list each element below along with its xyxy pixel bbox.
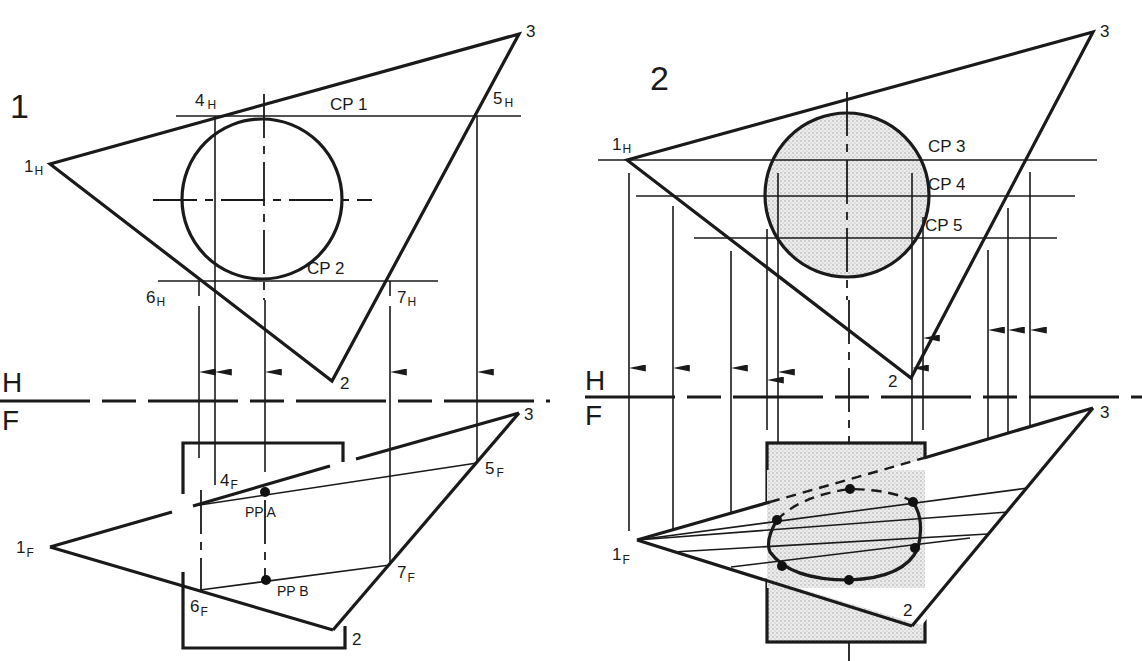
figure2-horizontal-view: 1H CP 3 CP 4 CP 5 3 2 — [598, 22, 1109, 391]
point-2h-label: 2 — [340, 374, 349, 393]
intersection-point — [844, 575, 854, 585]
edge-1-3-front-c — [356, 413, 519, 459]
intersection-point — [910, 543, 920, 553]
reference-h-label: H — [2, 367, 22, 398]
point-3f-label: 3 — [524, 405, 533, 424]
point-7f-label: 7F — [397, 563, 415, 585]
cp1-label: CP 1 — [330, 95, 368, 114]
point-7h-label: 7H — [397, 288, 416, 309]
figure-number: 2 — [650, 59, 669, 97]
point-1h-label: 1H — [612, 135, 631, 156]
point-2f-label: 2 — [352, 630, 361, 649]
pp-b-label: PP B — [277, 583, 309, 599]
intersection-point — [845, 484, 855, 494]
point-2f-label: 2 — [903, 601, 912, 620]
edge-1-3-front-b — [193, 466, 330, 506]
point-4h-label: 4H — [195, 91, 216, 112]
figure1-front-view: 4F PP A 5F 3 1F 7F PP B 6F 2 — [16, 405, 533, 649]
point-3h-label: 3 — [1100, 22, 1109, 41]
intersection-point — [777, 561, 787, 571]
reference-h-label: H — [585, 365, 605, 396]
figure-1: 1 4H CP 1 5H 3 1H CP 2 6H 7H 2 — [0, 22, 550, 649]
intersection-point — [908, 497, 918, 507]
point-1h-label: 1H — [24, 157, 43, 178]
piercing-point-b — [261, 575, 271, 585]
cylinder-top-view — [182, 119, 342, 279]
point-3h-label: 3 — [526, 22, 535, 41]
intersection-point — [772, 515, 782, 525]
figure-number: 1 — [10, 87, 29, 125]
edge-3-2-front — [333, 413, 519, 630]
figure1-horizontal-view: 4H CP 1 5H 3 1H CP 2 6H 7H 2 — [24, 22, 535, 393]
point-3f-label: 3 — [1100, 403, 1109, 422]
point-4f-label: 4F — [220, 471, 238, 492]
point-6f-label: 6F — [190, 597, 208, 619]
reference-f-label: F — [585, 400, 602, 431]
triangle-plane-top-view — [50, 34, 519, 381]
point-2h-label: 2 — [888, 372, 897, 391]
cp4-label: CP 4 — [928, 175, 966, 194]
piercing-point-a — [260, 487, 270, 497]
figure2-front-view: 3 1F 2 — [612, 403, 1109, 642]
edge-1-3-front-a — [50, 512, 172, 547]
cp2-label: CP 2 — [307, 259, 345, 278]
point-6h-label: 6H — [146, 288, 165, 309]
cp3-label: CP 3 — [928, 137, 966, 156]
point-1f-label: 1F — [612, 545, 630, 567]
point-5f-label: 5F — [485, 459, 504, 480]
figure-2: 2 1H CP 3 CP 4 CP 5 3 2 — [585, 22, 1142, 661]
pp-a-label: PP A — [245, 504, 277, 520]
orthographic-drawing: 1 4H CP 1 5H 3 1H CP 2 6H 7H 2 — [0, 0, 1142, 661]
cp5-label: CP 5 — [925, 216, 963, 235]
point-5h-label: 5H — [493, 89, 513, 110]
point-1f-label: 1F — [16, 538, 34, 560]
reference-f-label: F — [2, 405, 19, 436]
